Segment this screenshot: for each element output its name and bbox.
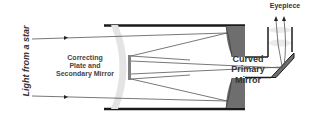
diagonal-mirror	[271, 53, 294, 78]
incoming-ray-bottom	[32, 96, 227, 101]
eyepiece-arrow-left	[274, 16, 278, 21]
ray-arrow-bottom	[64, 95, 68, 99]
eyepiece-arrow-right	[282, 16, 286, 21]
eyepiece-label: Eyepiece	[265, 2, 305, 10]
primary-mirror-label: Curved Primary Mirror	[226, 54, 270, 85]
secondary-mirror	[128, 55, 131, 80]
correcting-plate-label: Correcting Plate and Secondary Mirror	[55, 54, 115, 78]
incoming-ray-top	[32, 33, 227, 39]
primary-mirror-upper	[226, 26, 245, 57]
light-source-label: Light from a star	[21, 25, 31, 96]
